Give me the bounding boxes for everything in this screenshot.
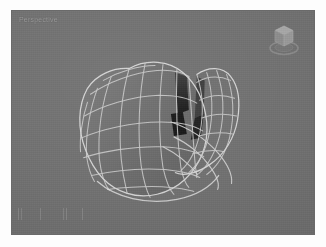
viewport-3d[interactable]: Perspective [11, 10, 315, 235]
hud-tick [82, 208, 83, 220]
hud-tick [63, 208, 64, 220]
hud-tick [21, 208, 22, 220]
viewport-label: Perspective [19, 15, 58, 24]
hud-axis-ticks [18, 208, 84, 222]
hud-tick [66, 208, 67, 220]
hud-tick [40, 208, 41, 220]
viewcube-icon[interactable] [266, 19, 302, 57]
viewcube-gizmo[interactable] [266, 19, 302, 57]
hud-tick [18, 208, 19, 220]
app-window: Perspective [0, 0, 326, 247]
